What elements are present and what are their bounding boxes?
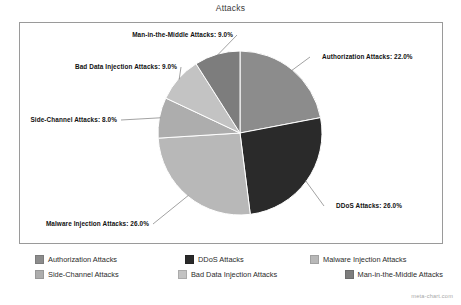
legend-item-authorization-attacks[interactable]: Authorization Attacks xyxy=(35,252,185,267)
slice-annotation: Bad Data Injection Attacks: 9.0% xyxy=(75,63,177,71)
legend-item-label: Bad Data Injection Attacks xyxy=(191,270,277,279)
legend-swatch-icon xyxy=(185,255,194,264)
slice-annotation: Malware Injection Attacks: 26.0% xyxy=(46,220,149,228)
legend-item-label: Authorization Attacks xyxy=(48,255,117,264)
slice-leader-line xyxy=(121,118,160,120)
slice-annotation: Side-Channel Attacks: 8.0% xyxy=(30,116,117,123)
legend-item-side-channel-attacks[interactable]: Side-Channel Attacks xyxy=(35,267,178,282)
slice-annotation: Man-in-the-Middle Attacks: 9.0% xyxy=(132,31,233,38)
chart-legend: Authorization Attacks DDoS Attacks Malwa… xyxy=(19,252,443,292)
legend-item-label: Malware Injection Attacks xyxy=(323,255,406,264)
pie-chart-figure: Attacks Authorization Attacks: 22.0%DDoS… xyxy=(0,0,461,305)
slice-leader-line xyxy=(292,57,310,71)
pie-svg: Authorization Attacks: 22.0%DDoS Attacks… xyxy=(19,22,443,244)
legend-swatch-icon xyxy=(178,270,187,279)
slice-annotation: DDoS Attacks: 26.0% xyxy=(336,202,402,209)
legend-swatch-icon xyxy=(345,270,354,279)
pie-slices-group xyxy=(158,51,322,215)
legend-item-label: DDoS Attacks xyxy=(198,255,244,264)
legend-swatch-icon xyxy=(35,255,44,264)
legend-item-ddos-attacks[interactable]: DDoS Attacks xyxy=(185,252,310,267)
legend-item-label: Man-in-the-Middle Attacks xyxy=(358,270,443,279)
slice-annotation: Authorization Attacks: 22.0% xyxy=(322,53,413,60)
watermark: meta-chart.com xyxy=(411,293,453,299)
legend-swatch-icon xyxy=(35,270,44,279)
legend-swatch-icon xyxy=(310,255,319,264)
pie-slice[interactable] xyxy=(158,133,250,215)
legend-row-2: Side-Channel Attacks Bad Data Injection … xyxy=(19,267,443,282)
legend-item-bad-data-injection-attacks[interactable]: Bad Data Injection Attacks xyxy=(178,267,345,282)
legend-item-malware-injection-attacks[interactable]: Malware Injection Attacks xyxy=(310,252,406,267)
chart-title: Attacks xyxy=(0,3,461,13)
legend-row-1: Authorization Attacks DDoS Attacks Malwa… xyxy=(19,252,443,267)
pie-slice[interactable] xyxy=(240,118,322,215)
slice-leader-line xyxy=(306,181,325,206)
legend-item-man-in-the-middle-attacks[interactable]: Man-in-the-Middle Attacks xyxy=(345,267,443,282)
slice-leader-line xyxy=(153,195,188,224)
legend-item-label: Side-Channel Attacks xyxy=(48,270,119,279)
